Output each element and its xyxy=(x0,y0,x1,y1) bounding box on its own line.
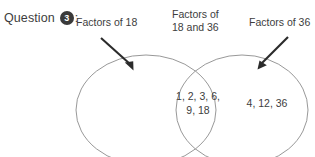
venn-diagram-worksheet: Question 3 : Factors xyxy=(0,0,315,157)
intersection-label-line2: 18 and 36 xyxy=(172,21,219,34)
intersection-values-line2: 9, 18 xyxy=(168,103,228,117)
left-label-arrow xyxy=(101,38,134,71)
intersection-values-line1: 1, 2, 3, 6, xyxy=(168,89,228,103)
intersection-label-line1: Factors of xyxy=(172,8,219,21)
intersection-values: 1, 2, 3, 6, 9, 18 xyxy=(168,89,228,117)
right-only-values: 4, 12, 36 xyxy=(237,96,297,110)
right-label-arrow xyxy=(258,37,289,70)
right-set-label: Factors of 36 xyxy=(249,16,310,29)
left-set-label: Factors of 18 xyxy=(76,16,137,29)
intersection-label: Factors of 18 and 36 xyxy=(172,8,219,33)
